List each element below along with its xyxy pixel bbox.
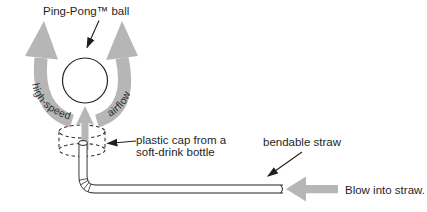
high-speed-arrowhead-icon	[25, 21, 58, 60]
ball-leader-arrow-icon	[87, 21, 99, 48]
ping-pong-ball	[63, 58, 108, 103]
blow-arrow-icon	[286, 177, 338, 202]
blow-label: Blow into straw.	[345, 184, 425, 196]
cap-label-line1: plastic cap from a	[136, 134, 227, 146]
cap-leader-arrow-icon	[108, 141, 137, 144]
airflow-arrowhead-icon	[106, 21, 138, 60]
cap-label-line2: soft-drink bottle	[136, 146, 215, 158]
diagram-canvas: high-speed airflow Ping-Pong™ ball	[0, 0, 427, 212]
bernoulli-ball-diagram: high-speed airflow Ping-Pong™ ball	[0, 0, 427, 212]
straw-label: bendable straw	[263, 136, 342, 148]
straw-leader-arrow-icon	[268, 152, 302, 176]
straw-tip-opening	[79, 141, 88, 146]
ball-title-label: Ping-Pong™ ball	[43, 5, 129, 17]
